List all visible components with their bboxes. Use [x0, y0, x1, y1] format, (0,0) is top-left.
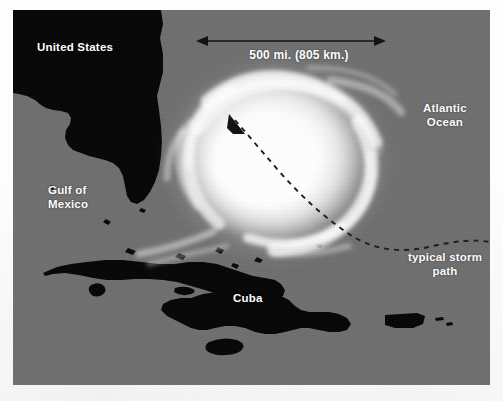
- map-page: 500 mi. (805 km.) United States Gulf of …: [0, 0, 503, 401]
- label-united-states: United States: [37, 40, 113, 54]
- label-atlantic-ocean: Atlantic Ocean: [423, 101, 467, 129]
- scale-bar-arrowhead-right: [374, 36, 386, 46]
- scale-bar-label: 500 mi. (805 km.): [203, 48, 395, 62]
- label-gulf-of-mexico: Gulf of Mexico: [48, 183, 88, 211]
- scale-bar-arrowhead-left: [196, 36, 208, 46]
- label-typical-storm-path: typical storm path: [391, 250, 490, 278]
- label-cuba: Cuba: [233, 291, 263, 305]
- hurricane-map[interactable]: 500 mi. (805 km.) United States Gulf of …: [13, 10, 490, 385]
